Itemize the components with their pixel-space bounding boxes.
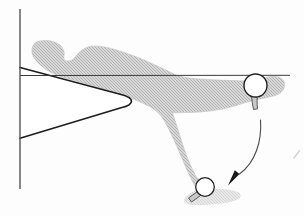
ankle-weight-ball-raised xyxy=(244,74,267,97)
prone-leg-swing-diagram xyxy=(0,0,304,216)
ankle-weight-ball-lowered xyxy=(196,178,215,197)
exercise-diagram-stage xyxy=(0,0,304,216)
